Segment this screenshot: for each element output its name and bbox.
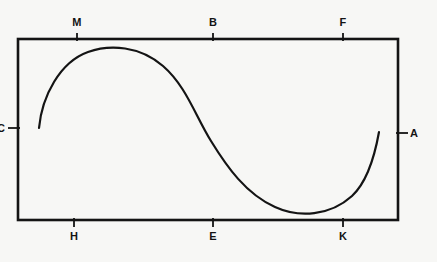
diagram-canvas: M B F H E K C A	[0, 0, 437, 262]
label-E: E	[209, 231, 217, 242]
label-B: B	[209, 17, 217, 28]
label-F: F	[340, 17, 347, 28]
s-curve	[39, 48, 379, 214]
label-M: M	[72, 17, 81, 28]
label-H: H	[70, 231, 78, 242]
label-C: C	[0, 123, 5, 134]
label-K: K	[339, 231, 347, 242]
frame-rectangle	[18, 39, 398, 220]
diagram-svg	[0, 0, 437, 262]
label-A: A	[410, 128, 418, 139]
